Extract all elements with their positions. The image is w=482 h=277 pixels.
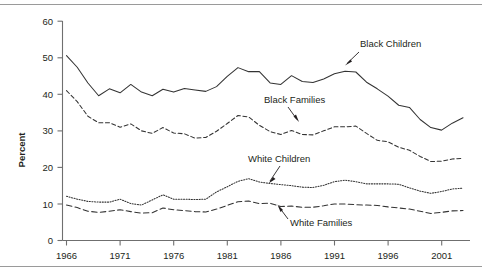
y-axis-ticks: 0 10 20 30 40 50 60 <box>42 16 62 246</box>
series-group <box>67 56 464 214</box>
series-line-black-children <box>67 56 464 131</box>
series-line-white-families <box>67 201 464 213</box>
line-chart: Percent 0 10 20 30 40 50 60 1966 <box>0 0 482 277</box>
annotation-label-black-families: Black Families <box>264 94 325 105</box>
x-tick-label-1966: 1966 <box>56 250 77 261</box>
x-tick-label-1996: 1996 <box>378 250 399 261</box>
annotation-white-children: White Children <box>248 153 310 184</box>
annotation-label-black-children: Black Children <box>360 38 421 49</box>
y-tick-label-10: 10 <box>42 199 53 210</box>
figure-container: Percent 0 10 20 30 40 50 60 1966 <box>0 0 482 277</box>
annotation-white-families: White Families <box>278 205 353 229</box>
y-tick-label-60: 60 <box>42 16 53 27</box>
y-axis-title: Percent <box>16 132 27 168</box>
axes <box>63 21 471 241</box>
y-tick-label-50: 50 <box>42 52 53 63</box>
y-tick-label-40: 40 <box>42 89 53 100</box>
annotation-black-children: Black Children <box>345 38 421 66</box>
annotation-arrow-black-children <box>345 60 352 66</box>
annotation-label-white-families: White Families <box>290 217 353 228</box>
x-tick-label-1976: 1976 <box>163 250 184 261</box>
y-tick-label-30: 30 <box>42 125 53 136</box>
x-axis-ticks: 1966 1971 1976 1981 1986 1991 1996 2001 <box>56 241 452 262</box>
x-tick-label-1981: 1981 <box>217 250 238 261</box>
y-tick-label-20: 20 <box>42 162 53 173</box>
x-tick-label-1971: 1971 <box>110 250 131 261</box>
annotation-label-white-children: White Children <box>248 153 310 164</box>
y-tick-label-0: 0 <box>48 235 53 246</box>
x-tick-label-1991: 1991 <box>324 250 345 261</box>
series-line-white-children <box>67 179 464 205</box>
annotation-black-families: Black Families <box>264 94 325 122</box>
x-tick-label-1986: 1986 <box>270 250 291 261</box>
x-tick-label-2001: 2001 <box>431 250 452 261</box>
